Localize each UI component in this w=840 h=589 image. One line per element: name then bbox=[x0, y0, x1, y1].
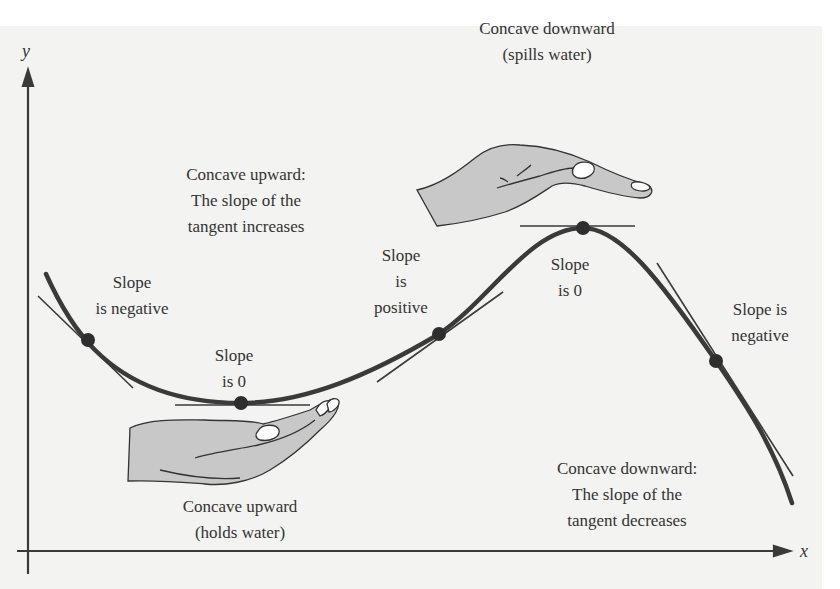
label-slope-zero-min: Slope is 0 bbox=[215, 343, 254, 395]
x-axis-arrow-icon bbox=[774, 546, 790, 556]
label-concave-up-bottom: Concave upward (holds water) bbox=[183, 494, 298, 546]
label-slope-zero-max: Slope is 0 bbox=[551, 252, 590, 304]
downturned-hand-icon bbox=[417, 145, 652, 226]
label-slope-negative-right: Slope is negative bbox=[731, 297, 789, 349]
label-concave-down-bottom: Concave downward: The slope of the tange… bbox=[557, 456, 697, 534]
label-slope-positive: Slope is positive bbox=[374, 243, 428, 321]
label-concave-down-top: Concave downward (spills water) bbox=[479, 16, 615, 68]
y-axis-arrow-icon bbox=[23, 70, 33, 86]
point-positive bbox=[432, 327, 446, 341]
y-axis-label: y bbox=[22, 38, 30, 64]
cupped-hand-icon bbox=[128, 399, 339, 485]
point-negative-left bbox=[81, 333, 95, 347]
label-slope-negative-left: Slope is negative bbox=[95, 270, 168, 322]
point-maximum bbox=[576, 221, 590, 235]
x-axis-label: x bbox=[800, 538, 808, 564]
point-minimum bbox=[234, 396, 248, 410]
point-negative-right bbox=[709, 354, 723, 368]
label-concave-up-top: Concave upward: The slope of the tangent… bbox=[186, 162, 305, 240]
tangent-negative-right bbox=[657, 263, 793, 476]
